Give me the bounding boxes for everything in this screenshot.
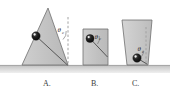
shape-c-group[interactable]: θ c C. [122, 20, 152, 88]
shape-a-angle-label: θ [58, 26, 62, 34]
shape-b-group[interactable]: θ c B. [83, 29, 108, 88]
shape-b-angle-subscript: c [99, 36, 101, 41]
shape-c-ball-highlight [134, 55, 136, 57]
shape-a-group[interactable]: θ c A. [22, 8, 68, 88]
shape-b-ball[interactable] [86, 35, 94, 43]
shape-a-triangle-body[interactable] [22, 8, 68, 65]
shape-a-ball-highlight [33, 33, 35, 35]
shape-b-angle-label: θ [95, 33, 99, 41]
ground-surface-group [0, 65, 170, 73]
physics-figure-container: θ c A. θ c B. θ c C. [0, 0, 170, 91]
shape-a-ball[interactable] [32, 32, 40, 40]
shape-c-caption: C. [132, 79, 139, 88]
shape-c-angle-subscript: c [142, 49, 144, 54]
shape-c-ball[interactable] [133, 54, 141, 62]
physics-figure-svg: θ c A. θ c B. θ c C. [0, 0, 170, 91]
ground-surface [0, 65, 170, 73]
shape-a-angle-subscript: c [62, 30, 64, 35]
shape-c-angle-label: θ [138, 45, 142, 53]
shape-b-ball-highlight [88, 36, 90, 38]
shape-a-caption: A. [43, 79, 51, 88]
shape-b-caption: B. [91, 79, 98, 88]
